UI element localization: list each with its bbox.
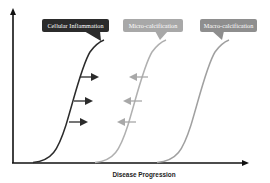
leftward-shift-arrows xyxy=(117,73,148,126)
callout-label: Micro-calcification xyxy=(129,22,178,29)
left-arrow-icon xyxy=(117,118,136,126)
x-axis-arrowhead-icon xyxy=(242,160,249,166)
right-arrow-icon xyxy=(74,97,93,105)
curve-macro-calcification xyxy=(157,40,229,163)
y-axis xyxy=(10,8,16,163)
callout-micro-calcification: Micro-calcification xyxy=(123,19,183,32)
callout-label: Cellular Inflammation xyxy=(47,22,103,29)
callout-label: Macro-calcification xyxy=(204,22,254,29)
right-arrow-icon xyxy=(80,73,99,81)
callout-tail-macro xyxy=(212,31,224,40)
callout-macro-calcification: Macro-calcification xyxy=(200,19,257,32)
x-axis xyxy=(12,160,249,166)
left-arrow-icon xyxy=(129,73,148,81)
callout-tail-micro xyxy=(155,31,168,40)
curve-cellular-inflammation xyxy=(33,40,104,163)
callout-tail-inflammation xyxy=(84,31,101,41)
x-axis-label: Disease Progression xyxy=(0,171,270,178)
callout-cellular-inflammation: Cellular Inflammation xyxy=(42,19,109,32)
y-axis-arrowhead-icon xyxy=(10,8,16,15)
right-arrow-icon xyxy=(69,118,88,126)
left-arrow-icon xyxy=(123,97,142,105)
